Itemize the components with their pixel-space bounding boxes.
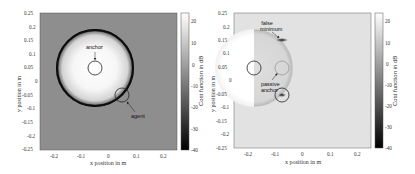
y-axis-label: y position in m [16,76,22,112]
agent-annotation: agent [131,113,145,119]
false-minimum-label-line2: minimum [260,26,274,32]
false-minimum-annotation: false minimum [260,20,274,32]
x-tick: 0.2 [160,153,166,159]
y-tick: 0 [35,78,38,84]
anchor-annotation: anchor [86,44,103,50]
colorbar-tick: -40 [191,147,198,153]
y-tick: 0.15 [24,37,33,43]
colorbar [375,13,383,148]
colorbar-tick: 0 [386,61,389,67]
passive-anchor-annotation: passive anchor [261,81,275,93]
y-tick: -0.1 [27,105,35,111]
colorbar-tick: -20 [191,104,198,110]
y-tick: -0.2 [27,133,35,139]
y-tick: -0.15 [22,119,33,125]
colorbar-tick: -30 [191,126,198,132]
y-tick: -0.25 [22,146,33,152]
x-tick: -0.1 [271,151,279,157]
colorbar-tick: 20 [385,18,390,24]
x-tick: 0.2 [354,151,360,157]
y-tick: 0.15 [218,37,227,43]
y-tick: -0.05 [22,92,33,98]
x-tick: 0.1 [327,151,333,157]
y-tick: -0.05 [216,91,227,97]
colorbar-tick: -10 [191,83,198,89]
x-tick: -0.2 [50,153,58,159]
colorbar-tick: 20 [191,18,196,24]
x-tick: -0.2 [244,151,252,157]
right-heatmap [205,0,415,174]
x-tick: 0.1 [133,153,139,159]
y-axis-label: y position in m [210,76,216,112]
colorbar-tick: -30 [385,124,392,130]
y-tick: -0.2 [221,131,229,137]
y-tick: 0 [229,77,232,83]
y-tick: 0.05 [218,64,227,70]
x-axis-label: x position in m [285,159,321,165]
x-axis-label: x position in m [90,160,126,166]
colorbar-tick: 10 [385,40,390,46]
y-tick: 0.25 [218,10,227,16]
y-tick: 0.05 [24,64,33,70]
left-chart: 0.25 0.2 0.15 0.1 0.05 0 -0.05 -0.1 -0.1… [0,0,205,174]
x-tick: 0 [107,153,110,159]
y-tick: -0.25 [216,145,227,151]
y-tick: 0.25 [24,10,33,16]
y-tick: 0.1 [29,51,35,57]
colorbar-tick: 10 [191,40,196,46]
x-tick: -0.1 [77,153,85,159]
colorbar-tick: 0 [192,62,195,68]
y-tick: -0.15 [216,118,227,124]
colorbar-label: Cost function in dB [392,56,398,106]
colorbar [181,13,189,150]
colorbar-tick: -20 [385,103,392,109]
colorbar-tick: -10 [385,82,392,88]
right-chart: 0.25 0.2 0.15 0.1 0.05 0 -0.05 -0.1 -0.1… [205,0,415,174]
y-tick: 0.2 [29,24,35,30]
x-tick: 0 [301,151,304,157]
passive-anchor-label-line2: anchor [261,87,275,93]
y-tick: 0.2 [223,24,229,30]
y-tick: 0.1 [223,50,229,56]
colorbar-tick: -40 [385,145,392,151]
y-tick: -0.1 [221,104,229,110]
colorbar-label: Cost function in dB [198,56,204,106]
